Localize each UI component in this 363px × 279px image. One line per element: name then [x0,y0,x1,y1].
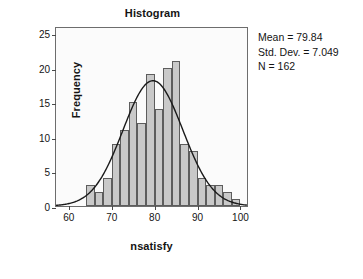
histogram-bar [232,199,241,206]
y-tick-label: 25 [39,30,50,40]
y-tick-mark [52,208,56,209]
chart-title: Histogram [55,7,250,20]
histogram-bar [223,192,232,206]
stat-std-dev: Std. Dev. = 7.049 [258,45,339,60]
statistics-annotation: Mean = 79.84 Std. Dev. = 7.049 N = 162 [258,30,339,74]
x-tick-label: 70 [106,212,117,223]
histogram-bar [206,185,215,206]
histogram-bar [129,102,138,206]
histogram-bar [112,144,121,206]
y-tick-label: 10 [39,134,50,144]
x-tick-label: 100 [232,212,249,223]
histogram-chart: Histogram Frequency 0510152025 607080901… [0,0,363,279]
histogram-bar [180,144,189,206]
y-tick-label: 20 [39,65,50,75]
x-tick-mark [240,206,241,210]
x-axis-title: nsatisfy [55,240,248,252]
x-tick-label: 90 [192,212,203,223]
plot-area: Frequency 0510152025 60708090100 [55,27,248,207]
histogram-bar [137,123,146,206]
y-tick-label: 5 [44,168,50,178]
y-tick-label: 15 [39,99,50,109]
stat-n: N = 162 [258,59,339,74]
histogram-bar [103,178,112,206]
x-tick-mark [198,206,199,210]
y-tick-label: 0 [44,203,50,213]
plot-inner [56,28,247,206]
histogram-bar [86,185,95,206]
histogram-bar [189,151,198,206]
histogram-bar [163,68,172,206]
histogram-bar [120,130,129,206]
histogram-bar [215,185,224,206]
x-tick-mark [112,206,113,210]
histogram-bar [198,178,207,206]
histogram-bar [95,192,104,206]
stat-mean: Mean = 79.84 [258,30,339,45]
x-tick-mark [155,206,156,210]
histogram-bar [172,61,181,206]
x-tick-mark [69,206,70,210]
histogram-bar [155,109,164,206]
histogram-bar [146,74,155,206]
x-tick-label: 80 [149,212,160,223]
x-tick-label: 60 [63,212,74,223]
